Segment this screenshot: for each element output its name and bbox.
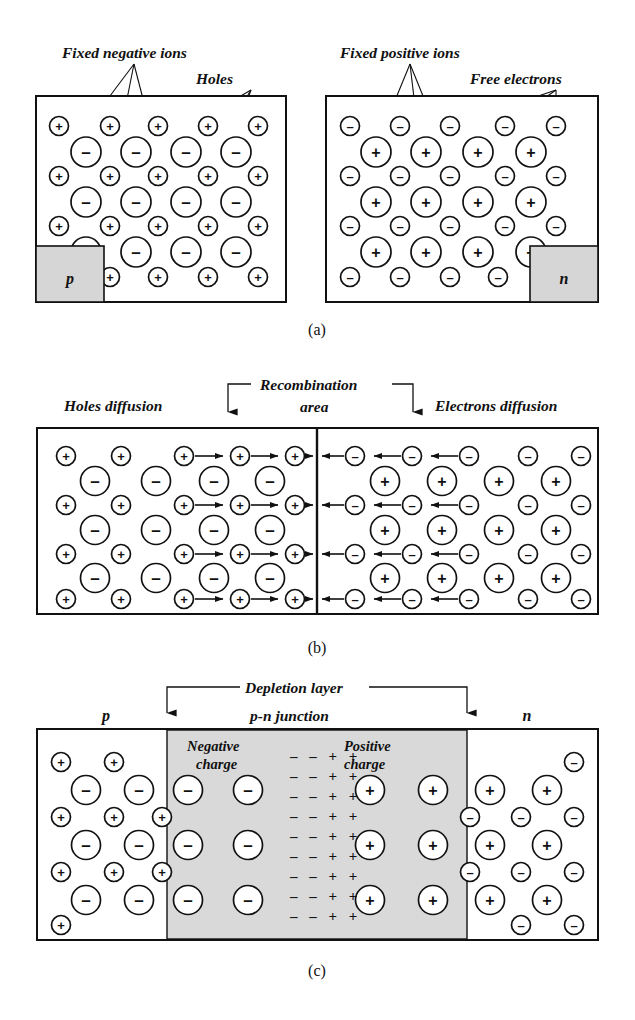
carrier-hole: + xyxy=(199,117,218,136)
carrier-electron: – xyxy=(572,590,591,609)
svg-text:–: – xyxy=(466,865,473,880)
carrier-electron: – xyxy=(391,268,410,287)
svg-text:+: + xyxy=(154,219,162,234)
carrier-hole: + xyxy=(175,545,194,564)
svg-text:+: + xyxy=(542,892,551,909)
fixed-positive-ion: + xyxy=(428,564,457,593)
field-row: – – + + xyxy=(289,908,361,924)
carrier-electron: – xyxy=(441,117,460,136)
svg-text:+: + xyxy=(365,782,374,799)
svg-text:+: + xyxy=(204,119,212,134)
svg-text:–: – xyxy=(408,547,415,562)
carrier-hole: + xyxy=(249,217,268,236)
svg-text:–: – xyxy=(396,270,403,285)
svg-text:+: + xyxy=(473,194,482,211)
svg-text:+: + xyxy=(437,473,446,490)
svg-text:–: – xyxy=(408,449,415,464)
fixed-negative-ion: – xyxy=(71,187,101,217)
carrier-hole: + xyxy=(112,545,131,564)
svg-text:–: – xyxy=(524,592,531,607)
svg-text:+: + xyxy=(254,119,262,134)
caption-a: (a) xyxy=(308,321,326,339)
svg-text:+: + xyxy=(421,244,430,261)
carrier-hole: + xyxy=(57,545,76,564)
fixed-positive-ion: + xyxy=(533,886,562,915)
carrier-electron: – xyxy=(391,217,410,236)
svg-text:+: + xyxy=(106,270,114,285)
label-depletion-layer: Depletion layer xyxy=(244,679,344,696)
carrier-electron: – xyxy=(341,117,360,136)
carrier-hole: + xyxy=(249,117,268,136)
svg-text:+: + xyxy=(204,219,212,234)
svg-text:–: – xyxy=(90,472,99,491)
fixed-negative-ion: – xyxy=(171,137,201,167)
svg-text:+: + xyxy=(551,570,560,587)
fixed-positive-ion: + xyxy=(371,516,400,545)
svg-text:–: – xyxy=(183,836,192,855)
fixed-negative-ion: – xyxy=(71,137,101,167)
fixed-negative-ion: – xyxy=(125,776,154,805)
label-recombination-area-line1: Recombination xyxy=(259,376,357,393)
carrier-electron: – xyxy=(460,590,479,609)
caption-c: (c) xyxy=(308,962,326,980)
svg-text:–: – xyxy=(265,521,274,540)
svg-text:–: – xyxy=(446,270,453,285)
svg-text:+: + xyxy=(254,169,262,184)
svg-text:–: – xyxy=(577,449,584,464)
svg-text:+: + xyxy=(158,865,166,880)
carrier-hole: + xyxy=(50,217,69,236)
carrier-electron: – xyxy=(441,167,460,186)
panel-c-field-column: – – + + – – + + – – + + – – + + – – + + … xyxy=(289,748,361,924)
svg-text:–: – xyxy=(517,865,524,880)
svg-text:–: – xyxy=(131,193,140,212)
fixed-positive-ion: + xyxy=(476,886,505,915)
svg-text:+: + xyxy=(428,782,437,799)
carrier-hole: + xyxy=(286,545,305,564)
carrier-hole: + xyxy=(101,217,120,236)
svg-text:+: + xyxy=(55,169,63,184)
svg-text:+: + xyxy=(117,449,125,464)
fixed-negative-ion: – xyxy=(256,516,285,545)
carrier-electron: – xyxy=(403,545,422,564)
svg-text:–: – xyxy=(81,781,90,800)
svg-text:+: + xyxy=(380,570,389,587)
carrier-electron: – xyxy=(460,545,479,564)
panel-c-p-label: p xyxy=(100,707,110,725)
svg-text:–: – xyxy=(570,755,577,770)
svg-text:+: + xyxy=(106,119,114,134)
svg-text:+: + xyxy=(57,865,65,880)
depletion-negative-ion: – xyxy=(234,831,263,860)
svg-text:–: – xyxy=(209,569,218,588)
svg-text:+: + xyxy=(154,169,162,184)
svg-text:–: – xyxy=(243,891,252,910)
svg-text:–: – xyxy=(570,865,577,880)
field-row: – – + + xyxy=(289,748,361,764)
depletion-negative-ion: – xyxy=(234,886,263,915)
carrier-electron: – xyxy=(572,447,591,466)
label-recombination-area-line2: area xyxy=(300,398,329,415)
svg-text:–: – xyxy=(81,143,90,162)
carrier-electron: – xyxy=(565,808,584,827)
svg-text:–: – xyxy=(231,193,240,212)
carrier-hole: + xyxy=(57,447,76,466)
svg-text:+: + xyxy=(62,449,70,464)
carrier-electron: – xyxy=(512,863,531,882)
fixed-negative-ion: – xyxy=(200,516,229,545)
svg-text:–: – xyxy=(131,243,140,262)
svg-text:–: – xyxy=(181,143,190,162)
svg-text:–: – xyxy=(183,891,192,910)
svg-text:+: + xyxy=(494,522,503,539)
svg-text:+: + xyxy=(437,522,446,539)
fixed-positive-ion: + xyxy=(371,467,400,496)
fixed-positive-ion: + xyxy=(371,564,400,593)
depletion-positive-ion: + xyxy=(419,886,448,915)
carrier-hole: + xyxy=(105,863,124,882)
carrier-electron: – xyxy=(341,268,360,287)
svg-text:–: – xyxy=(351,449,358,464)
svg-text:+: + xyxy=(551,473,560,490)
svg-text:+: + xyxy=(542,782,551,799)
carrier-electron: – xyxy=(391,167,410,186)
fixed-negative-ion: – xyxy=(256,564,285,593)
svg-text:–: – xyxy=(90,569,99,588)
carrier-hole: + xyxy=(50,167,69,186)
